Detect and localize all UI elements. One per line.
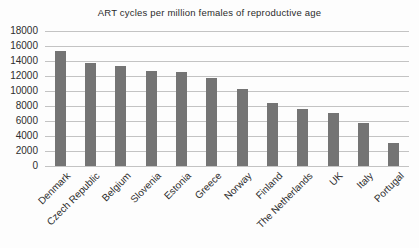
bar-the-netherlands (297, 109, 308, 166)
x-axis-label: UK (327, 170, 345, 188)
x-axis-label: Greece (193, 170, 224, 201)
gridline (45, 61, 409, 62)
gridline (45, 106, 409, 107)
gridline (45, 91, 409, 92)
y-tick-label: 2000 (0, 145, 38, 157)
bar-italy (358, 123, 369, 166)
bar-norway (237, 89, 248, 166)
chart-title: ART cycles per million females of reprod… (0, 7, 419, 18)
x-axis-label: Belgium (99, 170, 132, 203)
x-axis-label: Portugal (372, 170, 406, 204)
plot-area (45, 31, 409, 166)
x-axis-label: Estonia (162, 170, 193, 201)
y-tick-label: 10000 (0, 85, 38, 97)
x-axis-label: Italy (355, 170, 376, 191)
y-tick-label: 18000 (0, 25, 38, 37)
bar-portugal (388, 143, 399, 166)
y-tick-label: 8000 (0, 100, 38, 112)
y-tick-label: 6000 (0, 115, 38, 127)
gridline (45, 151, 409, 152)
bar-estonia (176, 72, 187, 166)
bar-finland (267, 103, 278, 166)
gridline (45, 31, 409, 32)
gridline (45, 166, 409, 167)
bar-denmark (55, 51, 66, 166)
x-axis-label: Czech Republic (45, 170, 102, 227)
x-axis-label: Norway (222, 170, 254, 202)
y-tick-label: 4000 (0, 130, 38, 142)
bar-greece (206, 78, 217, 167)
gridline (45, 76, 409, 77)
bar-chart: ART cycles per million females of reprod… (0, 0, 419, 248)
bar-czech-republic (85, 63, 96, 167)
bar-belgium (115, 66, 126, 166)
y-tick-label: 12000 (0, 70, 38, 82)
x-axis-label: The Netherlands (255, 170, 315, 230)
y-tick-label: 14000 (0, 55, 38, 67)
gridline (45, 136, 409, 137)
y-tick-label: 0 (0, 160, 38, 172)
gridline (45, 46, 409, 47)
x-axis-label: Slovenia (128, 170, 163, 205)
bar-uk (328, 113, 339, 166)
gridline (45, 121, 409, 122)
bar-slovenia (146, 71, 157, 166)
y-tick-label: 16000 (0, 40, 38, 52)
